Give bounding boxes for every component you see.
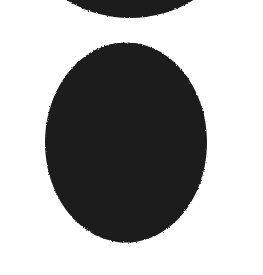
- glyph-canvas: [0, 0, 263, 275]
- letter-o-glyph: [0, 0, 263, 275]
